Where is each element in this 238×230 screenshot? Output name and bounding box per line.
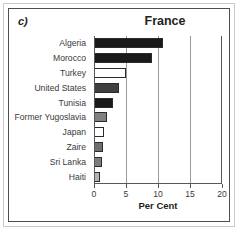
category-label: Turkey bbox=[60, 68, 86, 78]
tick-mark bbox=[158, 184, 159, 188]
category-label: Morocco bbox=[53, 53, 86, 63]
tick-mark bbox=[190, 184, 191, 188]
tick-label: 20 bbox=[217, 189, 227, 199]
tick-mark bbox=[222, 184, 223, 188]
category-label: Japan bbox=[63, 127, 86, 137]
category-label: Haiti bbox=[69, 172, 86, 182]
tick-mark bbox=[126, 184, 127, 188]
tick-label: 5 bbox=[124, 189, 129, 199]
category-label: Zaire bbox=[66, 142, 86, 152]
chart-title: France bbox=[105, 14, 225, 28]
tick-label: 0 bbox=[92, 189, 97, 199]
category-label: Algeria bbox=[59, 38, 86, 48]
plot-area bbox=[94, 36, 222, 184]
category-label: Sri Lanka bbox=[50, 157, 86, 167]
panel-label: c) bbox=[18, 15, 28, 27]
tick-label: 10 bbox=[153, 189, 163, 199]
category-label: Tunisia bbox=[59, 98, 86, 108]
x-axis-title: Per Cent bbox=[94, 200, 222, 211]
y-axis-category-labels: AlgeriaMoroccoTurkeyUnited StatesTunisia… bbox=[8, 36, 90, 184]
category-label: United States bbox=[34, 83, 86, 93]
category-label: Former Yugoslavia bbox=[15, 112, 87, 122]
tick-label: 15 bbox=[185, 189, 195, 199]
plot-frame bbox=[94, 36, 222, 184]
tick-mark bbox=[94, 184, 95, 188]
figure: c) France AlgeriaMoroccoTurkeyUnited Sta… bbox=[0, 0, 238, 230]
